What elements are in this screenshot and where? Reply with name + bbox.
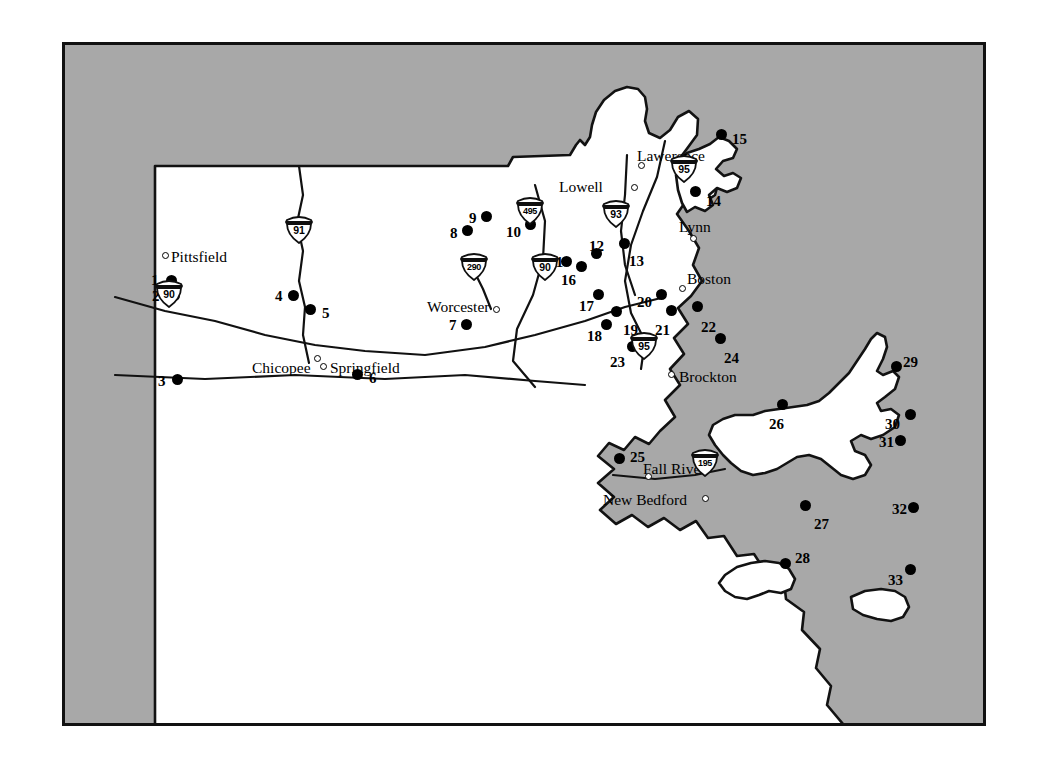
site-marker-24 <box>715 333 726 344</box>
site-number-15: 15 <box>732 132 747 147</box>
site-number-33: 33 <box>888 573 903 588</box>
site-marker-26 <box>777 399 788 410</box>
shield-route-number: 95 <box>629 341 659 352</box>
site-number-13: 13 <box>629 254 644 269</box>
interstate-shield-195: 195 <box>690 449 720 477</box>
site-marker-9 <box>481 211 492 222</box>
interstate-shield-95: 95 <box>669 155 699 183</box>
site-marker-13 <box>619 238 630 249</box>
city-marker-brockton <box>668 371 675 378</box>
shield-route-number: 93 <box>601 209 631 220</box>
site-number-8: 8 <box>450 226 458 241</box>
site-number-10: 10 <box>506 225 521 240</box>
site-number-12: 12 <box>589 239 604 254</box>
city-label-chicopee: Chicopee <box>252 360 311 376</box>
site-marker-15 <box>716 129 727 140</box>
site-number-31: 31 <box>879 435 894 450</box>
city-marker-springfield <box>320 363 327 370</box>
site-marker-33 <box>905 564 916 575</box>
site-number-7: 7 <box>449 318 457 333</box>
site-marker-16 <box>576 261 587 272</box>
site-marker-4 <box>288 290 299 301</box>
interstate-shield-90: 90 <box>154 280 184 308</box>
site-number-23: 23 <box>610 355 625 370</box>
city-label-pittsfield: Pittsfield <box>171 249 227 265</box>
site-number-32: 32 <box>892 502 907 517</box>
city-label-lowell: Lowell <box>559 179 603 195</box>
site-number-16: 16 <box>561 273 576 288</box>
interstate-shield-91: 91 <box>284 216 314 244</box>
site-marker-8 <box>462 225 473 236</box>
site-marker-17 <box>593 289 604 300</box>
city-marker-chicopee <box>314 355 321 362</box>
shield-route-number: 90 <box>154 289 184 300</box>
site-number-18: 18 <box>587 329 602 344</box>
site-number-29: 29 <box>903 355 918 370</box>
map-figure-frame: PittsfieldChicopeeSpringfieldWorcesterLo… <box>62 42 986 726</box>
shield-route-number: 290 <box>459 262 489 273</box>
page-root: PittsfieldChicopeeSpringfieldWorcesterLo… <box>0 0 1042 772</box>
shield-route-number: 90 <box>530 262 560 273</box>
city-label-worcester: Worcester <box>427 299 489 315</box>
site-marker-20 <box>656 289 667 300</box>
site-marker-6 <box>352 369 363 380</box>
shield-route-number: 495 <box>515 206 545 217</box>
site-number-24: 24 <box>724 351 739 366</box>
site-marker-27 <box>800 500 811 511</box>
site-marker-18 <box>601 319 612 330</box>
massachusetts-map-svg <box>65 45 983 723</box>
interstate-shield-290: 290 <box>459 253 489 281</box>
city-label-new-bedford: New Bedford <box>603 492 687 508</box>
site-number-25: 25 <box>630 450 645 465</box>
city-marker-new-bedford <box>702 495 709 502</box>
shield-route-number: 195 <box>690 458 720 469</box>
site-number-17: 17 <box>579 299 594 314</box>
site-number-26: 26 <box>769 417 784 432</box>
site-number-9: 9 <box>469 211 477 226</box>
interstate-shield-495: 495 <box>515 197 545 225</box>
site-number-3: 3 <box>158 374 166 389</box>
city-label-boston: Boston <box>687 271 731 287</box>
site-marker-21 <box>666 305 677 316</box>
interstate-shield-95: 95 <box>629 332 659 360</box>
site-marker-30 <box>905 409 916 420</box>
site-number-5: 5 <box>322 306 330 321</box>
site-number-20: 20 <box>637 295 652 310</box>
interstate-shield-90: 90 <box>530 253 560 281</box>
site-number-28: 28 <box>795 551 810 566</box>
site-marker-29 <box>891 361 902 372</box>
site-number-27: 27 <box>814 517 829 532</box>
site-marker-32 <box>908 502 919 513</box>
city-label-brockton: Brockton <box>679 369 737 385</box>
city-marker-lawerence <box>638 162 645 169</box>
city-marker-fall-river <box>645 473 652 480</box>
city-marker-pittsfield <box>162 252 169 259</box>
city-marker-lynn <box>690 235 697 242</box>
city-label-lynn: Lynn <box>679 219 711 235</box>
site-marker-14 <box>690 186 701 197</box>
site-number-14: 14 <box>706 194 721 209</box>
interstate-shield-93: 93 <box>601 200 631 228</box>
site-marker-5 <box>305 304 316 315</box>
city-marker-boston <box>679 285 686 292</box>
site-marker-28 <box>780 558 791 569</box>
site-number-30: 30 <box>885 417 900 432</box>
city-marker-lowell <box>631 184 638 191</box>
site-marker-25 <box>614 453 625 464</box>
site-marker-31 <box>895 435 906 446</box>
site-number-6: 6 <box>369 371 377 386</box>
site-number-4: 4 <box>275 289 283 304</box>
site-marker-19 <box>611 306 622 317</box>
site-marker-3 <box>172 374 183 385</box>
site-marker-22 <box>692 301 703 312</box>
city-label-springfield: Springfield <box>330 360 400 376</box>
city-marker-worcester <box>493 306 500 313</box>
shield-route-number: 95 <box>669 164 699 175</box>
site-number-22: 22 <box>701 320 716 335</box>
site-marker-7 <box>461 319 472 330</box>
shield-route-number: 91 <box>284 225 314 236</box>
